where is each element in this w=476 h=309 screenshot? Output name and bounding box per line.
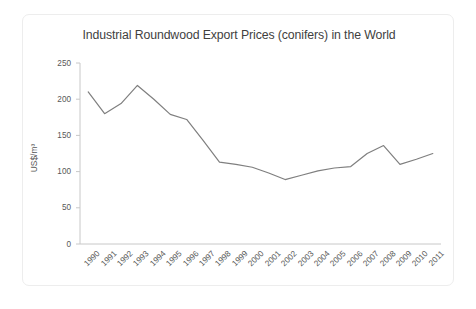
y-axis-ticks xyxy=(76,63,80,244)
y-axis-tick-label: 150 xyxy=(41,131,71,140)
y-axis-tick-label: 200 xyxy=(41,95,71,104)
y-axis xyxy=(76,63,80,244)
y-axis-tick-label: 250 xyxy=(41,59,71,68)
plot-area: US$/m³ 050100150200250 19901991199219931… xyxy=(23,15,455,287)
y-axis-tick-label: 50 xyxy=(41,203,71,212)
data-series-line xyxy=(88,85,433,179)
y-axis-tick-label: 100 xyxy=(41,167,71,176)
line-chart-svg xyxy=(23,15,455,287)
y-axis-tick-label: 0 xyxy=(41,240,71,249)
chart-figure-card: Industrial Roundwood Export Prices (coni… xyxy=(22,14,454,286)
